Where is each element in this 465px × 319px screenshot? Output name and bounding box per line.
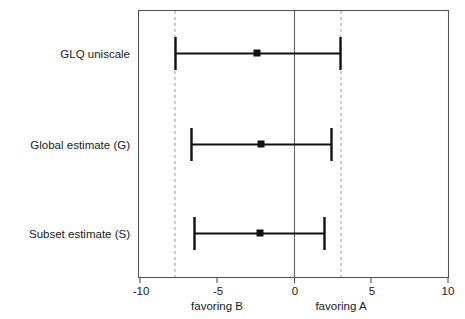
axis-tick-label-pos5: 5 <box>369 285 375 297</box>
row-label-glq-uniscale: GLQ uniscale <box>60 48 130 60</box>
axis-tick-label-neg10: -10 <box>133 285 150 297</box>
estimate-marker <box>257 230 264 237</box>
annotation-favoring-b: favoring B <box>191 300 243 312</box>
row-label-global-estimate: Global estimate (G) <box>30 139 130 151</box>
axis-tick-label-pos10: 10 <box>442 285 455 297</box>
estimate-marker <box>254 50 261 57</box>
row-label-subset-estimate: Subset estimate (S) <box>29 228 130 240</box>
plot-canvas: GLQ uniscale Global estimate (G) Subset … <box>0 0 465 319</box>
axis-tick-label-neg5: -5 <box>213 285 223 297</box>
forest-plot-chart: GLQ uniscale Global estimate (G) Subset … <box>0 0 465 319</box>
estimate-marker <box>258 141 265 148</box>
axis-tick-label-zero: 0 <box>292 285 298 297</box>
annotation-favoring-a: favoring A <box>315 300 366 312</box>
